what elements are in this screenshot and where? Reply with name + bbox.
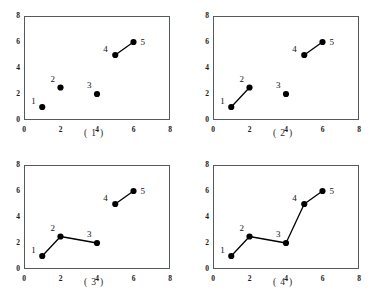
data-point-label: 4 [292, 194, 297, 203]
data-point-marker [39, 253, 45, 259]
plot-area: 123450246802468 [213, 16, 359, 120]
data-point-label: 3 [87, 81, 92, 90]
data-point-label: 2 [240, 75, 245, 84]
y-axis-tick-label: 4 [199, 213, 209, 221]
plot-canvas [213, 165, 359, 269]
plot-canvas [213, 16, 359, 120]
data-point-label: 1 [31, 246, 36, 255]
panel-caption: ( 1 ) [0, 128, 188, 138]
data-point-marker [283, 91, 289, 97]
y-axis-tick-label: 0 [199, 116, 209, 124]
data-point-label: 2 [240, 224, 245, 233]
data-point-label: 2 [51, 75, 56, 84]
plot-canvas [24, 165, 170, 269]
data-point-label: 5 [141, 187, 146, 196]
y-axis-tick-label: 6 [10, 38, 20, 46]
link-line [286, 204, 304, 243]
y-axis-tick-label: 2 [199, 90, 209, 98]
panel-caption: ( 3 ) [0, 277, 188, 287]
y-axis-tick-label: 8 [199, 12, 209, 20]
data-point-marker [94, 91, 100, 97]
data-point-marker [57, 233, 63, 239]
data-point-label: 5 [330, 38, 335, 47]
plot-canvas [24, 16, 170, 120]
data-point-label: 2 [51, 224, 56, 233]
data-point-label: 3 [87, 230, 92, 239]
y-axis-tick-label: 8 [10, 12, 20, 20]
panel-caption: ( 4 ) [189, 277, 377, 287]
y-axis-tick-label: 2 [10, 239, 20, 247]
data-point-marker [246, 84, 252, 90]
y-axis-tick-label: 0 [10, 116, 20, 124]
scatter-panel-4: 123450246802468( 4 ) [189, 149, 377, 298]
data-point-label: 4 [103, 45, 108, 54]
data-point-marker [130, 188, 136, 194]
y-axis-tick-label: 0 [199, 265, 209, 273]
data-point-label: 3 [276, 230, 281, 239]
data-point-marker [130, 39, 136, 45]
link-line [304, 191, 322, 204]
y-axis-tick-label: 6 [199, 38, 209, 46]
data-point-label: 1 [220, 97, 225, 106]
data-point-label: 3 [276, 81, 281, 90]
data-point-marker [228, 253, 234, 259]
link-line [231, 88, 249, 108]
data-point-marker [246, 233, 252, 239]
data-point-marker [39, 104, 45, 110]
scatter-panel-1: 123450246802468( 1 ) [0, 0, 188, 149]
data-point-label: 1 [220, 246, 225, 255]
data-point-marker [112, 52, 118, 58]
data-point-marker [301, 52, 307, 58]
data-point-marker [228, 104, 234, 110]
y-axis-tick-label: 4 [10, 213, 20, 221]
y-axis-tick-label: 2 [199, 239, 209, 247]
clustering-figure: 123450246802468( 1 )123450246802468( 2 )… [0, 0, 377, 298]
data-point-marker [57, 84, 63, 90]
scatter-panel-3: 123450246802468( 3 ) [0, 149, 188, 298]
link-line [304, 42, 322, 55]
data-point-marker [112, 201, 118, 207]
data-point-label: 4 [292, 45, 297, 54]
y-axis-tick-label: 8 [199, 161, 209, 169]
data-point-marker [283, 240, 289, 246]
data-point-label: 5 [330, 187, 335, 196]
panel-caption: ( 2 ) [189, 128, 377, 138]
plot-area: 123450246802468 [213, 165, 359, 269]
link-line [231, 237, 249, 257]
data-point-marker [319, 39, 325, 45]
link-line [42, 237, 60, 257]
data-point-marker [301, 201, 307, 207]
y-axis-tick-label: 8 [10, 161, 20, 169]
y-axis-tick-label: 4 [10, 64, 20, 72]
plot-area: 123450246802468 [24, 16, 170, 120]
data-point-marker [94, 240, 100, 246]
y-axis-tick-label: 2 [10, 90, 20, 98]
y-axis-tick-label: 0 [10, 265, 20, 273]
plot-area: 123450246802468 [24, 165, 170, 269]
y-axis-tick-label: 6 [199, 187, 209, 195]
data-point-label: 4 [103, 194, 108, 203]
link-line [115, 42, 133, 55]
data-point-label: 5 [141, 38, 146, 47]
y-axis-tick-label: 6 [10, 187, 20, 195]
y-axis-tick-label: 4 [199, 64, 209, 72]
data-point-marker [319, 188, 325, 194]
link-line [115, 191, 133, 204]
scatter-panel-2: 123450246802468( 2 ) [189, 0, 377, 149]
data-point-label: 1 [31, 97, 36, 106]
